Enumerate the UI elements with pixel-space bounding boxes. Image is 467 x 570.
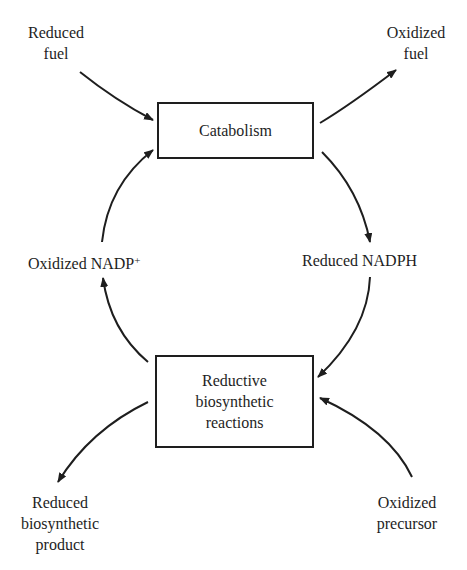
label-superscript: + bbox=[134, 254, 140, 266]
arrow-nadph-to-reductive bbox=[318, 277, 370, 377]
label-oxidized-fuel: Oxidized fuel bbox=[376, 22, 456, 64]
label-line: Oxidized bbox=[376, 22, 456, 43]
node-reductive-biosynthesis: Reductive biosynthetic reactions bbox=[155, 355, 314, 448]
label-text: Oxidized NADP bbox=[28, 255, 134, 272]
arrow-oxidized-fuel bbox=[320, 70, 396, 123]
label-reduced-product: Reduced biosynthetic product bbox=[10, 492, 110, 555]
label-oxidized-nadp: Oxidized NADP+ bbox=[28, 250, 140, 274]
arrow-nadp-to-catabolism bbox=[102, 150, 153, 242]
label-reduced-nadph: Reduced NADPH bbox=[302, 250, 417, 271]
label-line: Reduced bbox=[10, 492, 110, 513]
label-line: fuel bbox=[18, 43, 94, 64]
node-catabolism: Catabolism bbox=[157, 102, 314, 159]
node-line: reactions bbox=[206, 412, 264, 433]
label-line: precursor bbox=[366, 513, 448, 534]
arrow-catabolism-to-nadph bbox=[322, 152, 370, 242]
arrow-reductive-to-nadp bbox=[103, 278, 148, 362]
label-oxidized-precursor: Oxidized precursor bbox=[366, 492, 448, 534]
label-line: Oxidized bbox=[366, 492, 448, 513]
label-text: Reduced NADPH bbox=[302, 252, 417, 269]
label-reduced-fuel: Reduced fuel bbox=[18, 22, 94, 64]
label-line: Reduced bbox=[18, 22, 94, 43]
arrow-precursor bbox=[320, 398, 412, 477]
label-line: product bbox=[10, 534, 110, 555]
arrow-product bbox=[58, 402, 148, 482]
arrow-reduced-fuel bbox=[80, 72, 153, 120]
label-line: fuel bbox=[376, 43, 456, 64]
node-line: biosynthetic bbox=[195, 391, 273, 412]
node-line: Reductive bbox=[202, 370, 267, 391]
label-line: biosynthetic bbox=[10, 513, 110, 534]
arrows-layer bbox=[0, 0, 467, 570]
node-catabolism-label: Catabolism bbox=[199, 120, 272, 141]
